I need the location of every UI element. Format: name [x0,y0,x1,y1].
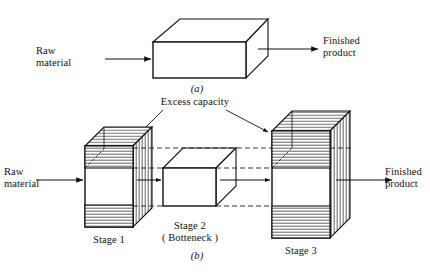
panel-b-input-label-line1: Raw [4,166,39,178]
panel-a-input-label: Raw material [36,45,71,69]
stage-2-label: Stage 2 [155,220,225,232]
figure-canvas: Raw material Finished product (a) Excess… [0,0,430,274]
callout-line-right [226,110,268,132]
stage-3-label: Stage 3 [268,245,334,257]
stage-2-box [163,148,236,206]
panel-b-output-label-line1: Finished [385,166,422,178]
panel-b-caption: (b) [185,250,209,262]
panel-b-input-label: Raw material [4,166,39,190]
stage-3-box [272,111,350,238]
panel-a-output-label: Finished product [323,35,360,59]
panel-b-output-label: Finished product [385,166,422,190]
panel-a-input-label-line1: Raw [36,45,71,57]
panel-a-output-label-line1: Finished [323,35,360,47]
panel-a-box [153,19,268,78]
stage-2-sublabel: ( Botteneck ) [150,232,230,244]
stage-1-label: Stage 1 [76,234,142,246]
panel-b-output-label-line2: product [385,178,422,190]
panel-b-input-label-line2: material [4,178,39,190]
excess-capacity-callout: Excess capacity [149,96,241,108]
panel-a-output-label-line2: product [323,47,360,59]
panel-a-input-label-line2: material [36,57,71,69]
panel-a-caption: (a) [185,83,209,95]
stage-1-box [85,127,152,227]
